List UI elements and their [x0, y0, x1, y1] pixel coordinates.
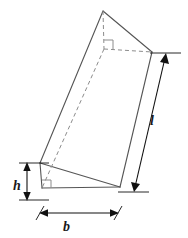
label-base: b [63, 220, 70, 234]
length-arrowhead-bottom [131, 182, 140, 192]
prism-drawing [0, 0, 188, 238]
prism-solid-edges [40, 11, 152, 188]
hidden-edge-long-diagonal [42, 49, 104, 188]
edge-top-apex-to-right [103, 11, 152, 52]
label-height: h [13, 179, 21, 193]
edge-front-vertical-leg [40, 163, 42, 188]
right-angle-markers [42, 40, 113, 188]
right-angle-marker-back [104, 40, 113, 49]
base-arrowhead-right [110, 209, 119, 216]
label-length: l [150, 114, 154, 128]
edge-apex-to-front-left [40, 11, 103, 163]
dimension-base [36, 206, 122, 220]
edge-front-base-leg [42, 187, 120, 188]
base-arrowhead-left [39, 209, 48, 216]
hidden-edge-back-vertical [103, 11, 104, 49]
edge-backright-to-frontright [120, 52, 152, 187]
dimension-height [19, 162, 49, 201]
length-arrowhead-top [160, 53, 169, 64]
geometry-figure: h b l [0, 0, 188, 238]
hidden-edge-back-base [104, 49, 152, 52]
